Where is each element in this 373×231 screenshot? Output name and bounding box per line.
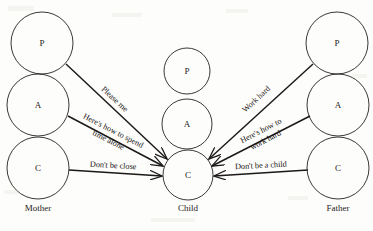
ego-state-letter-child-parent: P [184, 66, 189, 76]
message-label-work-hard: Work hard [241, 84, 272, 114]
person-label-child: Child [178, 203, 199, 213]
ego-state-letter-mother-child: C [35, 163, 41, 173]
message-arrow-dont-be-close [69, 170, 162, 176]
message-label-dont-be-close: Don't be close [90, 160, 137, 171]
ego-state-letter-mother-adult: A [35, 100, 42, 110]
message-arrow-dont-be-a-child [214, 170, 308, 176]
diagram-canvas: PACPACPAC MotherChildFather Please meHer… [0, 0, 373, 231]
message-label-line: Don't be close [90, 160, 137, 171]
ego-state-diagram: PACPACPAC MotherChildFather Please meHer… [0, 0, 373, 231]
ego-state-circle-layer: PACPACPAC [7, 12, 369, 200]
ego-state-letter-father-adult: A [335, 100, 342, 110]
message-label-line: Don't be a child [235, 160, 287, 172]
person-label-layer: MotherChildFather [25, 203, 350, 213]
ego-state-letter-child-adult: A [184, 119, 191, 129]
ego-state-letter-father-child: C [335, 163, 341, 173]
person-label-mother: Mother [25, 203, 52, 213]
person-label-father: Father [327, 203, 350, 213]
message-label-dont-be-a-child: Don't be a child [235, 160, 287, 172]
message-label-line: Work hard [241, 84, 272, 114]
ego-state-letter-father-parent: P [334, 38, 339, 48]
ego-state-letter-child-child: C [185, 170, 191, 180]
message-label-heres-how-to-spend-time-alone: Here's how to spendtime alone [77, 112, 145, 159]
ego-state-letter-mother-parent: P [39, 38, 44, 48]
